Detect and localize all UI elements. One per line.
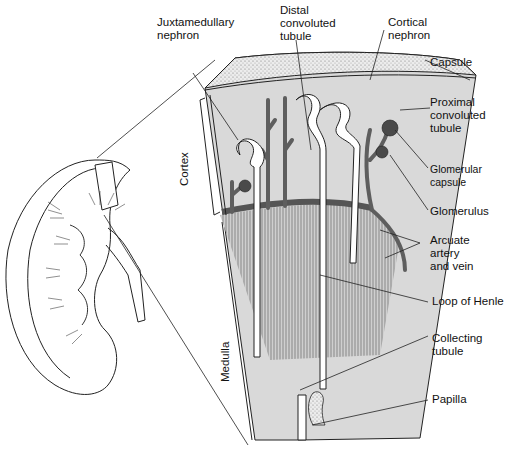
label-juxtamedullary-nephron: Juxtamedullary nephron [157, 16, 234, 42]
label-glomerulus: Glomerulus [430, 205, 489, 218]
label-cortical-nephron: Cortical nephron [388, 16, 430, 42]
region-label-medulla: Medulla [219, 342, 231, 382]
label-proximal-convoluted-tubule: Proximal convoluted tubule [430, 96, 486, 135]
whole-kidney [6, 160, 145, 394]
label-papilla: Papilla [432, 393, 467, 406]
label-distal-convoluted-tubule: Distal convoluted tubule [280, 4, 336, 43]
label-capsule: Capsule [430, 56, 472, 69]
label-collecting-tubule: Collecting tubule [432, 332, 483, 358]
region-label-cortex: Cortex [178, 152, 190, 186]
label-glomerular-capsule: Glomerular capsule [430, 163, 482, 189]
label-arcuate-artery-and-vein: Arcuate artery and vein [430, 234, 473, 273]
label-loop-of-henle: Loop of Henle [432, 295, 504, 308]
